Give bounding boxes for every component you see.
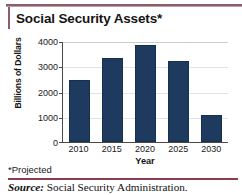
- y-axis-label: Billions of Dollars: [13, 34, 23, 112]
- bar-2030[interactable]: [201, 115, 222, 143]
- bar-slot-2030: [196, 42, 227, 142]
- bar-2025[interactable]: [168, 61, 189, 142]
- y-tick-label: 2000: [28, 88, 58, 97]
- page-title: Social Security Assets*: [10, 11, 162, 26]
- source-attribution: Source: Social Security Administration.: [8, 181, 188, 193]
- bar-2010[interactable]: [69, 80, 90, 143]
- y-tick-label: 0: [28, 139, 58, 148]
- y-tick-label: 1000: [28, 113, 58, 122]
- chart-plot-area: Billions of Dollars 4000 3000 2000 1000 …: [0, 32, 242, 160]
- bar-2020[interactable]: [135, 45, 156, 143]
- y-tick-label: 4000: [28, 38, 58, 47]
- x-tick-label-2015: 2015: [96, 144, 128, 154]
- source-divider: [8, 178, 238, 180]
- x-tick-label-2025: 2025: [162, 144, 194, 154]
- footnote-projected: *Projected: [8, 164, 52, 175]
- x-tick-label-2010: 2010: [63, 144, 95, 154]
- bar-slot-2015: [97, 42, 128, 142]
- bar-slot-2020: [130, 42, 161, 142]
- x-axis-label: Year: [62, 156, 228, 166]
- x-tick-label-2030: 2030: [196, 144, 228, 154]
- bar-slot-2010: [64, 42, 95, 142]
- x-tick-label-2020: 2020: [129, 144, 161, 154]
- source-text: Social Security Administration.: [44, 181, 188, 193]
- y-axis-tick-labels: 4000 3000 2000 1000 0: [26, 32, 58, 160]
- bar-series: [63, 42, 228, 142]
- bar-slot-2025: [163, 42, 194, 142]
- x-axis-tick-labels: 2010 2015 2020 2025 2030: [62, 144, 228, 154]
- bar-2015[interactable]: [102, 58, 123, 142]
- y-tickmark-0: [59, 142, 63, 143]
- plot-box: [62, 42, 228, 143]
- chart-figure: Social Security Assets* Billions of Doll…: [0, 0, 242, 195]
- y-tick-label: 3000: [28, 63, 58, 72]
- source-keyword: Source:: [8, 181, 44, 193]
- chart-title-box: Social Security Assets*: [8, 7, 220, 29]
